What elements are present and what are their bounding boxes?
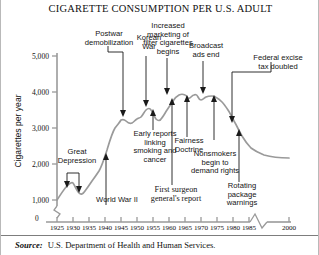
- y-tick-label-4000: 4,000: [9, 88, 49, 97]
- y-axis-break-icon: [54, 206, 60, 218]
- y-tick-label-3000: 3,000: [9, 124, 49, 133]
- x-tick-label-1985: 1985: [233, 224, 265, 232]
- annotation-first-surgeon-general-report: First surgeon general's report: [141, 185, 211, 203]
- annotation-great-depression: Great Depression: [47, 148, 107, 165]
- chart-figure: CIGARETTE CONSUMPTION PER U.S. ADULT: [0, 0, 319, 255]
- source-label: Source:: [15, 240, 43, 250]
- annotation-broadcast-ads-end: Broadcast ads end: [184, 42, 228, 59]
- source-text: U.S. Department of Health and Human Serv…: [48, 240, 216, 250]
- annotation-federal-excise-tax: Federal excise tax doubled: [246, 54, 310, 71]
- annotation-rotating-package-warnings: Rotating package warnings: [219, 182, 265, 208]
- y-tick-label-1000: 1,000: [9, 196, 49, 205]
- y-tick-label-zero: 0: [35, 214, 39, 223]
- y-tick-label-2000: 2,000: [9, 160, 49, 169]
- leader-postwar: [108, 52, 123, 112]
- source-line: Source:U.S. Department of Health and Hum…: [15, 240, 215, 250]
- annotation-nonsmokers-rights: Nonsmokers begin to demand rights: [184, 150, 246, 176]
- source-divider: [1, 235, 319, 236]
- x-tick-label-2000: 2000: [273, 224, 305, 232]
- y-tick-label-5000: 5,000: [9, 52, 49, 61]
